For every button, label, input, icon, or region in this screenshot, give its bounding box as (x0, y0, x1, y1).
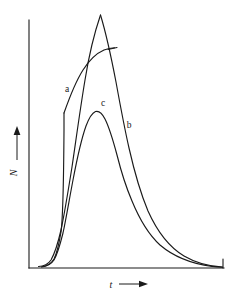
axes-group (29, 20, 224, 268)
figure-container: a b c N t (0, 0, 246, 299)
x-axis-label-text: t (110, 279, 113, 290)
curve-label-a: a (65, 84, 70, 94)
y-axis-label-group: N (8, 126, 20, 177)
curve-b-descending-path (101, 15, 223, 267)
up-arrow-icon (14, 126, 21, 135)
right-arrow-icon (139, 281, 148, 288)
curve-label-c: c (101, 98, 105, 108)
curve-b-path (39, 15, 101, 267)
curve-label-b: b (127, 120, 132, 130)
x-axis-label-group: t (110, 279, 148, 290)
y-axis-label-text: N (8, 168, 19, 177)
line-chart: a b c N t (0, 0, 246, 299)
